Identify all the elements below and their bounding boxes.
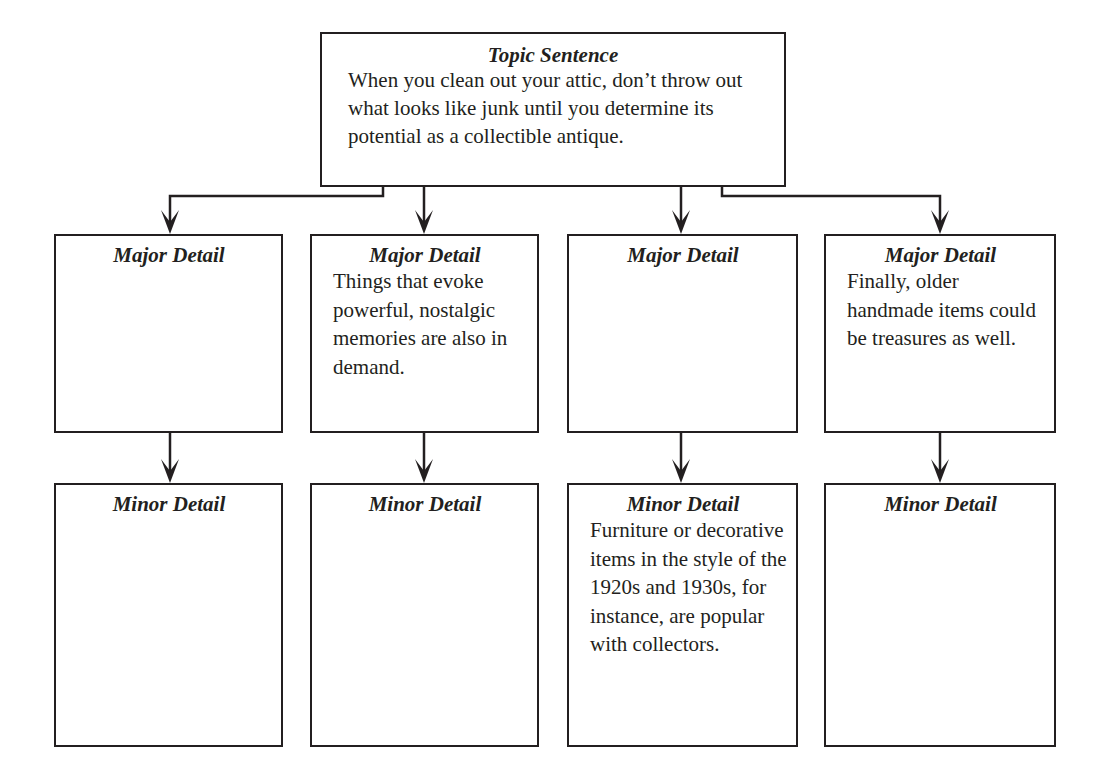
major-detail-text: Things that evoke powerful, nostalgic me… (333, 267, 529, 381)
minor-detail-title: Minor Detail (333, 492, 529, 516)
major-detail-box-1: Major Detail (54, 234, 283, 433)
minor-detail-title: Minor Detail (77, 492, 273, 516)
connector-topic-to-major-1 (170, 186, 383, 222)
major-detail-title: Major Detail (333, 243, 529, 267)
major-detail-box-3: Major Detail (567, 234, 798, 433)
topic-sentence-box: Topic Sentence When you clean out your a… (320, 32, 786, 187)
topic-sentence-title: Topic Sentence (348, 44, 784, 66)
major-detail-title: Major Detail (77, 243, 273, 267)
major-detail-box-4: Major Detail Finally, older handmade ite… (824, 234, 1056, 433)
major-detail-title: Major Detail (847, 243, 1046, 267)
minor-detail-box-1: Minor Detail (54, 483, 283, 747)
major-detail-text: Finally, older handmade items could be t… (847, 267, 1046, 353)
minor-detail-box-4: Minor Detail (824, 483, 1056, 747)
minor-detail-title: Minor Detail (590, 492, 788, 516)
minor-detail-text: Furniture or decorative items in the sty… (590, 516, 788, 659)
minor-detail-box-3: Minor Detail Furniture or decorative ite… (567, 483, 798, 747)
major-detail-box-2: Major Detail Things that evoke powerful,… (310, 234, 539, 433)
connector-topic-to-major-4 (722, 186, 940, 222)
minor-detail-title: Minor Detail (847, 492, 1046, 516)
major-detail-title: Major Detail (590, 243, 788, 267)
minor-detail-box-2: Minor Detail (310, 483, 539, 747)
topic-sentence-text: When you clean out your attic, don’t thr… (348, 66, 784, 150)
